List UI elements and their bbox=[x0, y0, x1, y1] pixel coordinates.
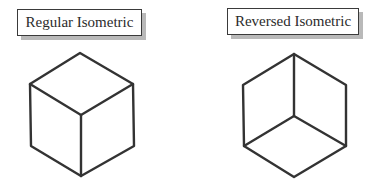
regular-cube-edge-left bbox=[30, 84, 81, 115]
isometric-diagrams bbox=[0, 0, 381, 186]
regular-cube-edge-right bbox=[81, 84, 133, 115]
reversed-isometric-cube bbox=[243, 54, 346, 177]
regular-isometric-cube bbox=[30, 53, 134, 176]
reversed-cube-edge-right bbox=[294, 116, 346, 146]
reversed-cube-edge-left bbox=[244, 116, 294, 146]
